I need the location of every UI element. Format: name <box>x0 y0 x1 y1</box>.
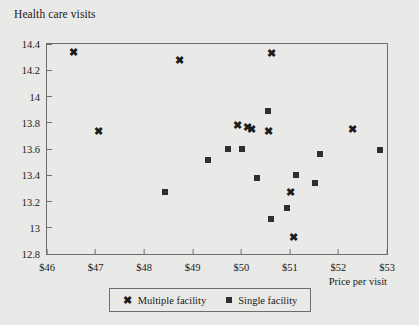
x-tick-label: $51 <box>282 254 298 273</box>
data-point-single-facility <box>284 205 290 211</box>
y-tick-label: 14 <box>30 91 48 102</box>
data-point-single-facility <box>254 175 260 181</box>
x-tick-mark <box>241 249 242 254</box>
y-tick-label: 13.4 <box>22 170 47 181</box>
y-tick-mark <box>47 122 52 123</box>
x-tick-mark <box>144 249 145 254</box>
x-marker-icon: ✖ <box>123 295 132 306</box>
plot-frame: ✖✖✖✖✖✖✖✖✖✖✖ 12.81313.213.413.613.81414.2… <box>46 43 388 255</box>
x-tick-label: $47 <box>88 254 104 273</box>
data-point-single-facility <box>225 146 231 152</box>
data-point-multiple-facility: ✖ <box>247 124 256 135</box>
legend-label-single-facility: Single facility <box>238 295 297 306</box>
y-tick-label: 13.8 <box>22 117 47 128</box>
x-tick-mark <box>47 249 48 254</box>
y-tick-mark <box>47 201 52 202</box>
data-point-multiple-facility: ✖ <box>233 120 242 131</box>
y-tick-mark <box>47 44 52 45</box>
data-point-multiple-facility: ✖ <box>264 125 273 136</box>
y-tick-label: 13 <box>30 222 48 233</box>
x-tick-mark <box>387 249 388 254</box>
x-tick-label: $53 <box>379 254 395 273</box>
data-point-multiple-facility: ✖ <box>267 48 276 59</box>
x-tick-label: $52 <box>331 254 347 273</box>
y-tick-mark <box>47 227 52 228</box>
y-tick-label: 13.6 <box>22 144 47 155</box>
data-point-multiple-facility: ✖ <box>289 231 298 242</box>
y-tick-label: 13.2 <box>22 196 47 207</box>
data-point-multiple-facility: ✖ <box>286 187 295 198</box>
data-point-single-facility <box>162 189 168 195</box>
chart-legend: ✖ Multiple facility Single facility <box>109 288 311 312</box>
x-tick-mark <box>95 249 96 254</box>
data-point-single-facility <box>239 146 245 152</box>
data-point-single-facility <box>377 147 383 153</box>
x-tick-label: $50 <box>233 254 249 273</box>
x-tick-label: $48 <box>136 254 152 273</box>
data-point-single-facility <box>312 180 318 186</box>
data-point-single-facility <box>293 172 299 178</box>
x-tick-label: $49 <box>185 254 201 273</box>
y-tick-mark <box>47 149 52 150</box>
y-tick-mark <box>47 96 52 97</box>
data-point-multiple-facility: ✖ <box>175 54 184 65</box>
x-tick-mark <box>338 249 339 254</box>
data-point-multiple-facility: ✖ <box>69 46 78 57</box>
data-point-single-facility <box>268 216 274 222</box>
x-tick-mark <box>289 249 290 254</box>
legend-item-multiple-facility: ✖ Multiple facility <box>123 295 207 306</box>
data-point-single-facility <box>317 151 323 157</box>
x-tick-mark <box>192 249 193 254</box>
y-tick-label: 14.2 <box>22 65 47 76</box>
scatter-chart: Health care visits ✖✖✖✖✖✖✖✖✖✖✖ 12.81313.… <box>0 0 419 325</box>
x-tick-label: $46 <box>39 254 55 273</box>
y-tick-mark <box>47 175 52 176</box>
y-tick-label: 14.4 <box>22 39 47 50</box>
data-point-multiple-facility: ✖ <box>94 125 103 136</box>
legend-item-single-facility: Single facility <box>226 295 297 306</box>
x-axis-label: Price per visit <box>329 276 387 287</box>
data-point-multiple-facility: ✖ <box>348 124 357 135</box>
y-tick-mark <box>47 70 52 71</box>
chart-title: Health care visits <box>14 8 96 20</box>
data-point-single-facility <box>265 108 271 114</box>
data-point-single-facility <box>205 157 211 163</box>
square-marker-icon <box>226 297 232 303</box>
plot-area: ✖✖✖✖✖✖✖✖✖✖✖ <box>47 44 387 254</box>
legend-label-multiple-facility: Multiple facility <box>138 295 207 306</box>
